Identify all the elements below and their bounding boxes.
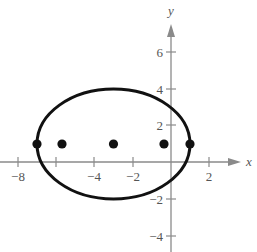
y-tick-label-m4: −4 — [149, 229, 163, 244]
x-tick-label-m8: −8 — [11, 169, 25, 184]
x-tick-label-m4: −4 — [87, 169, 101, 184]
y-tick-label-p6: 6 — [157, 45, 164, 60]
points — [32, 139, 194, 148]
x-tick-label-m2: −2 — [126, 169, 140, 184]
focus-right-point — [159, 139, 168, 148]
y-axis-arrow-icon — [167, 24, 175, 37]
ellipse-chart: −8 −4 −2 2 6 4 2 −2 −4 x y — [0, 0, 257, 252]
y-axis-label: y — [166, 3, 174, 18]
vertex-right-point — [185, 139, 194, 148]
x-axis-arrow-icon — [228, 158, 241, 166]
y-tick-label-p2: 2 — [157, 118, 164, 133]
x-tick-label-p2: 2 — [206, 169, 213, 184]
center-point — [109, 139, 118, 148]
x-axis-label: x — [245, 154, 252, 169]
y-tick-label-p4: 4 — [157, 82, 164, 97]
y-tick-label-m2: −2 — [149, 192, 163, 207]
focus-left-point — [57, 139, 66, 148]
vertex-left-point — [32, 139, 41, 148]
